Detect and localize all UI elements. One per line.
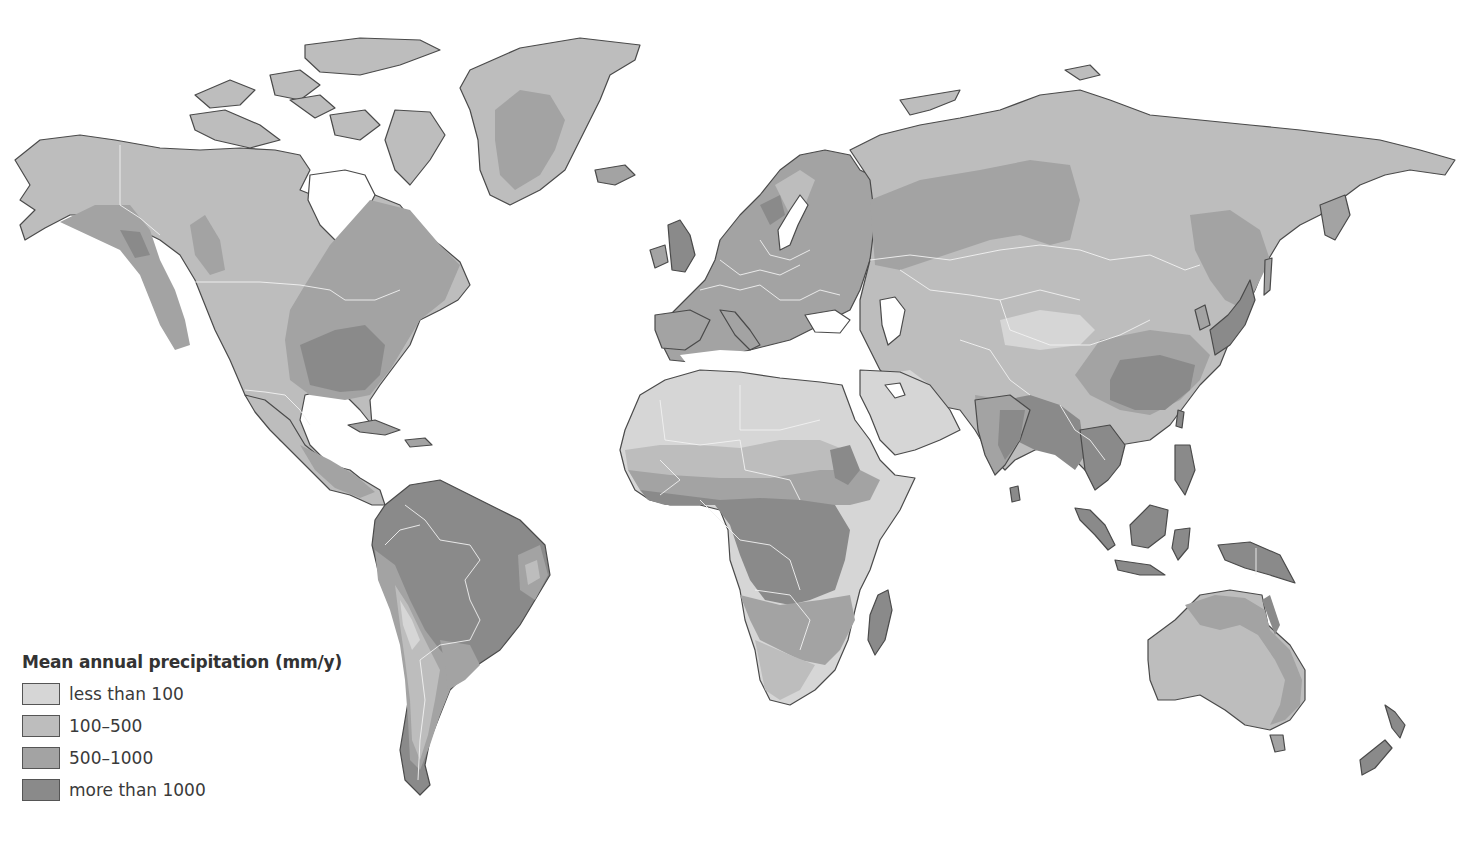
legend-swatch: [22, 747, 60, 769]
asia: [835, 65, 1455, 502]
legend-swatch: [22, 683, 60, 705]
legend-label: 500–1000: [69, 748, 153, 768]
legend-item-100-500: 100–500: [22, 710, 342, 742]
legend-item-less-than-100: less than 100: [22, 678, 342, 710]
legend-title: Mean annual precipitation (mm/y): [22, 652, 342, 672]
legend-swatch: [22, 779, 60, 801]
legend-label: less than 100: [69, 684, 184, 704]
oceania: [1148, 590, 1405, 775]
europe: [650, 150, 880, 380]
legend: Mean annual precipitation (mm/y) less th…: [22, 652, 342, 806]
north-america: [15, 38, 470, 505]
legend-swatch: [22, 715, 60, 737]
africa: [620, 370, 915, 705]
legend-item-more-than-1000: more than 1000: [22, 774, 342, 806]
legend-item-500-1000: 500–1000: [22, 742, 342, 774]
maritime-southeast-asia: [1075, 505, 1295, 583]
greenland: [460, 38, 640, 205]
legend-label: 100–500: [69, 716, 142, 736]
south-america: [372, 480, 550, 795]
legend-label: more than 1000: [69, 780, 206, 800]
